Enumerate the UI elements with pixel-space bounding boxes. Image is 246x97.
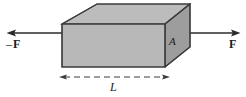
- length-dimension: [59, 74, 170, 79]
- physics-figure-tension-bar: –F F A L: [0, 0, 246, 97]
- force-arrow-left: [7, 29, 63, 36]
- area-label: A: [169, 36, 176, 47]
- force-label-right: F: [229, 38, 236, 50]
- length-label: L: [110, 81, 117, 93]
- bar-front-face: [62, 24, 165, 67]
- figure-canvas: [0, 0, 246, 97]
- force-label-left-symbol: F: [13, 37, 20, 51]
- length-dimension-arrow-right: [162, 74, 170, 79]
- force-label-left: –F: [6, 38, 20, 50]
- force-label-left-sign: –: [6, 37, 12, 51]
